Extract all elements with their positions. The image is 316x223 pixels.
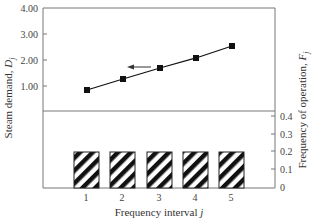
right-tick-03: 0.3 [280,129,293,140]
x-tick-5: 5 [229,192,234,203]
data-point-1 [84,87,90,93]
bar-3 [147,152,172,188]
left-arrow-icon [127,65,151,70]
x-tick-3: 3 [157,192,162,203]
right-tick-04: 0.4 [280,111,293,122]
right-y-axis: 0.4 0.3 0.2 0.1 0 Frequency of operation… [271,51,311,193]
left-tick-2: 2.00 [21,55,39,66]
x-tick-2: 2 [120,192,125,203]
bar-5 [219,152,244,188]
data-point-2 [120,76,126,82]
bar-1 [74,152,99,188]
data-point-5 [229,43,235,49]
data-point-4 [193,55,199,61]
x-tick-4: 4 [193,192,198,203]
frequency-bars [74,152,244,188]
chart-canvas: 4.00 3.00 2.00 1.00 Steam demand, Dj 0.4… [0,0,316,223]
right-tick-01: 0.1 [280,164,293,175]
left-tick-1: 1.00 [21,81,39,92]
x-axis: 1 2 3 4 5 Frequency interval j [84,192,234,218]
left-tick-3: 3.00 [21,29,39,40]
left-tick-4: 4.00 [21,3,39,14]
right-y-axis-title: Frequency of operation, Fj [296,51,311,169]
bar-2 [110,152,135,188]
right-tick-0: 0 [280,182,285,193]
left-y-axis: 4.00 3.00 2.00 1.00 Steam demand, Dj [2,3,47,139]
x-axis-title: Frequency interval j [115,206,204,218]
steam-demand-series [84,43,235,93]
data-point-3 [157,65,163,71]
right-tick-02: 0.2 [280,146,293,157]
left-y-axis-title: Steam demand, Dj [2,57,17,139]
x-tick-1: 1 [84,192,89,203]
bar-4 [183,152,208,188]
